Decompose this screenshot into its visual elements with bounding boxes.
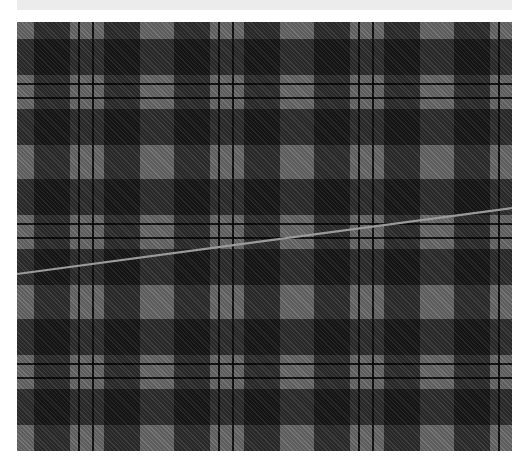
diagonal-line — [0, 0, 532, 473]
